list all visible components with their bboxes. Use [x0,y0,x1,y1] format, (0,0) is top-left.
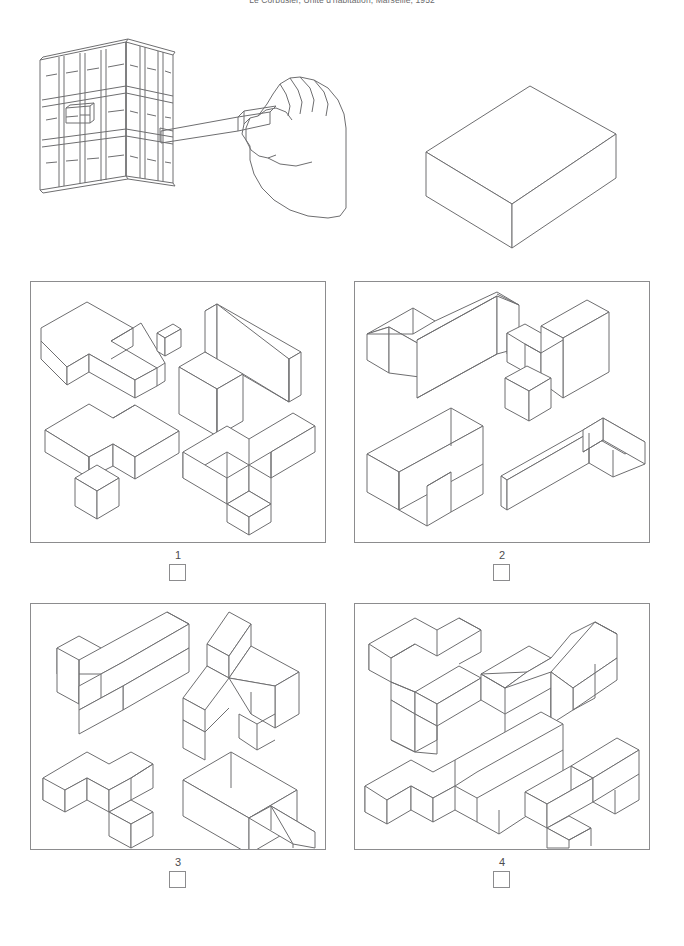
option-label-2: 2 [354,549,650,561]
option-label-4: 4 [354,856,650,868]
option-panel-2[interactable] [354,281,650,543]
option-checkbox-4[interactable] [493,871,510,888]
option-panel-4[interactable] [354,603,650,850]
page-title: Le Corbusier, Unité d'habitation, Marsei… [0,0,684,5]
option-panel-1[interactable] [30,281,326,543]
option-checkbox-2[interactable] [493,564,510,581]
option-checkbox-1[interactable] [169,564,186,581]
option-label-3: 3 [30,856,326,868]
reference-solid-block-drawing [404,70,644,260]
option-panel-3[interactable] [30,603,326,850]
option-label-1: 1 [30,549,326,561]
option-checkbox-3[interactable] [169,871,186,888]
reference-hand-facade-drawing [18,28,358,254]
